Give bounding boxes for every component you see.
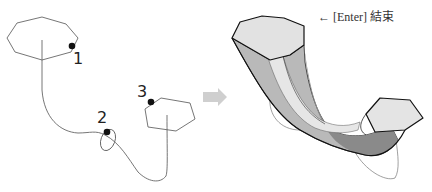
left-arrow-icon: ← [318, 10, 330, 24]
diagram-canvas [0, 0, 432, 192]
point-3-label: 3 [137, 84, 147, 100]
point-1-label: 1 [73, 51, 83, 67]
point-2-label: 2 [97, 110, 107, 126]
octagon-profile [7, 17, 78, 60]
point-2-marker [104, 129, 111, 136]
enter-hint: ← [Enter] 結束 [318, 7, 394, 25]
point-3-marker [148, 99, 155, 106]
enter-key-label: [Enter] [333, 10, 367, 24]
swept-solid [232, 16, 423, 179]
finish-label: 結束 [370, 10, 394, 24]
input-geometry [7, 17, 195, 181]
result-arrow-icon [203, 88, 227, 106]
solid-end-face [366, 98, 423, 132]
